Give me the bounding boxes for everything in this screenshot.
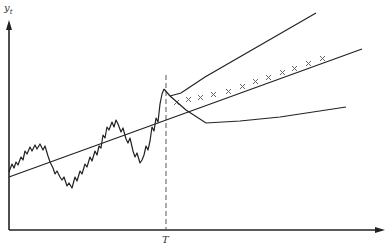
forecast-x-icon: [226, 89, 231, 94]
forecast-x-icon: [211, 92, 216, 97]
forecast-x-icon: [292, 66, 297, 71]
upper-forecast-bound: [170, 13, 316, 96]
forecast-x-icon: [253, 79, 258, 84]
point-forecast-markers: [174, 56, 325, 105]
forecast-origin-label: T: [162, 234, 169, 245]
x-axis-arrow-icon: [375, 227, 385, 233]
y-axis-label: yt: [4, 2, 12, 16]
observed-series-end: [164, 89, 170, 96]
diagram-canvas: [0, 0, 386, 249]
forecast-x-icon: [266, 75, 271, 80]
forecast-x-icon: [198, 95, 203, 100]
time-series-forecast-diagram: yt T: [0, 0, 386, 249]
y-axis-label-subscript: t: [10, 8, 13, 16]
forecast-x-icon: [186, 97, 191, 102]
forecast-x-icon: [240, 84, 245, 89]
forecast-x-icon: [320, 56, 325, 61]
observed-series: [9, 89, 164, 188]
forecast-x-icon: [306, 61, 311, 66]
y-axis-arrow-icon: [6, 20, 12, 30]
forecast-x-icon: [280, 70, 285, 75]
